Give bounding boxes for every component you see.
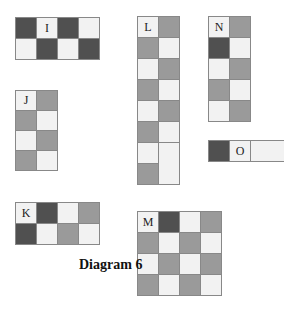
cell <box>79 18 99 38</box>
cell <box>201 212 221 232</box>
cell-label-I: I <box>37 18 57 38</box>
cell <box>159 59 179 79</box>
cell <box>16 39 36 59</box>
cell <box>37 203 57 223</box>
cell-label-N: N <box>209 17 229 37</box>
cell <box>251 141 284 161</box>
cell <box>230 59 250 79</box>
cell <box>138 38 158 58</box>
cell <box>16 151 36 170</box>
cell <box>201 275 221 295</box>
cell-label-J: J <box>16 91 36 110</box>
cell <box>37 39 57 59</box>
cell <box>58 224 78 244</box>
piece-M: M <box>137 211 222 296</box>
cell <box>230 17 250 37</box>
cell <box>37 151 57 170</box>
piece-N: N <box>208 16 251 122</box>
cell <box>138 122 158 142</box>
cell <box>159 254 179 274</box>
cell-label-O: O <box>230 141 250 161</box>
cell <box>58 18 78 38</box>
cell <box>37 131 57 150</box>
cell <box>230 38 250 58</box>
cell <box>230 101 250 121</box>
cell <box>159 212 179 232</box>
cell <box>138 275 158 295</box>
piece-O: O <box>208 140 284 162</box>
cell <box>209 101 229 121</box>
cell <box>138 164 158 184</box>
cell <box>159 122 179 142</box>
cell-label-K: K <box>16 203 36 223</box>
cell <box>230 80 250 100</box>
cell <box>79 203 99 223</box>
piece-L: L <box>137 16 180 185</box>
cell <box>37 91 57 110</box>
cell <box>37 224 57 244</box>
piece-I: I <box>15 17 100 60</box>
cell <box>16 18 36 38</box>
cell <box>159 80 179 100</box>
cell <box>159 101 179 121</box>
cell <box>79 39 99 59</box>
cell <box>159 275 179 295</box>
cell <box>180 212 200 232</box>
piece-J: J <box>15 90 58 171</box>
cell <box>16 131 36 150</box>
cell <box>180 275 200 295</box>
cell <box>138 233 158 253</box>
cell <box>201 254 221 274</box>
cell <box>58 203 78 223</box>
cell <box>58 39 78 59</box>
cell <box>180 233 200 253</box>
cell-label-L: L <box>138 17 158 37</box>
cell <box>138 80 158 100</box>
cell <box>180 254 200 274</box>
piece-K: K <box>15 202 100 245</box>
cell <box>159 38 179 58</box>
cell <box>209 80 229 100</box>
cell <box>138 101 158 121</box>
cell <box>16 111 36 130</box>
cell <box>138 143 158 163</box>
cell <box>138 59 158 79</box>
cell <box>37 111 57 130</box>
cell <box>159 17 179 37</box>
cell <box>209 38 229 58</box>
cell <box>209 59 229 79</box>
cell-label-M: M <box>138 212 158 232</box>
diagram-caption: Diagram 6 <box>79 257 142 273</box>
cell <box>16 224 36 244</box>
cell <box>79 224 99 244</box>
cell <box>201 233 221 253</box>
cell <box>159 143 179 184</box>
cell <box>209 141 229 161</box>
cell <box>159 233 179 253</box>
